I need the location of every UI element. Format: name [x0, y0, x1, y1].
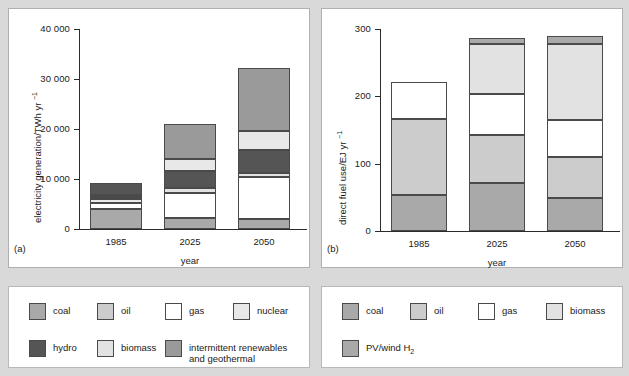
legend-item[interactable]: hydro	[29, 340, 77, 357]
legend-label: biomass	[570, 303, 605, 316]
legend-label: intermittent renewables and geothermal	[189, 340, 287, 364]
legend-panel-b: coaloilgasbiomassPV/wind H2	[321, 286, 623, 368]
legend-swatch-oil	[97, 303, 114, 320]
y-axis-tick-label: 0	[311, 225, 371, 236]
y-axis-tick-label: 300	[311, 23, 371, 34]
bar-segment-hydro	[238, 150, 290, 173]
y-axis-tick	[74, 129, 79, 130]
x-axis-tick-label: 2025	[160, 236, 220, 247]
panel-letter-a: (a)	[14, 243, 26, 254]
y-axis-tick-label: 40 000	[10, 23, 70, 34]
legend-swatch-oil	[410, 303, 427, 320]
legend-swatch-coal	[342, 303, 359, 320]
x-axis-line	[376, 231, 620, 232]
bar-segment-renewables	[238, 68, 290, 131]
bar-segment-biomass	[90, 197, 142, 199]
bar-segment-biomass	[547, 44, 603, 120]
bar-segment-coal	[391, 195, 447, 231]
x-axis-tick-label: 2050	[234, 236, 294, 247]
bar-segment-gas	[391, 82, 447, 118]
legend-label: gas	[502, 303, 517, 316]
y-axis-tick	[375, 29, 380, 30]
y-axis-title: electricity generation/TWh yr −1	[31, 92, 43, 223]
legend-item[interactable]: biomass	[546, 303, 605, 320]
x-axis-tick-label: 2050	[545, 238, 605, 249]
legend-label: oil	[121, 303, 131, 316]
bar-segment-biomass	[469, 44, 525, 95]
bar-segment-oil	[469, 135, 525, 183]
legend-swatch-gas	[165, 303, 182, 320]
legend-item[interactable]: biomass	[97, 340, 156, 357]
y-axis-tick-label: 0	[10, 223, 70, 234]
y-axis-tick	[74, 29, 79, 30]
stacked-bar	[90, 29, 142, 229]
stacked-bar	[469, 29, 525, 231]
bar-segment-nuclear	[90, 199, 142, 203]
y-axis-line	[380, 29, 381, 232]
y-axis-tick-label: 200	[311, 90, 371, 101]
legend-label: nuclear	[257, 303, 288, 316]
panel-letter-b: (b)	[327, 243, 339, 254]
y-axis-line	[79, 29, 80, 230]
stacked-bar	[164, 29, 216, 229]
bar-segment-gas	[90, 203, 142, 210]
y-axis-tick	[74, 229, 79, 230]
bar-segment-gas	[547, 120, 603, 157]
legend-item[interactable]: gas	[165, 303, 204, 320]
bar-segment-hydro	[90, 183, 142, 195]
legend-panel-a: coaloilgasnuclearhydrobiomassintermitten…	[8, 286, 310, 368]
bar-segment-coal	[164, 218, 216, 229]
legend-swatch-pv_wind_h2	[342, 340, 359, 357]
bar-segment-nuclear	[238, 131, 290, 150]
y-axis-tick	[74, 179, 79, 180]
y-axis-tick	[74, 79, 79, 80]
plot-area-b: 0100200300direct fuel use/EJ yr −1year19…	[322, 9, 622, 267]
bar-segment-gas	[164, 193, 216, 218]
legend-swatch-biomass	[546, 303, 563, 320]
bar-segment-coal	[238, 219, 290, 229]
bar-segment-coal	[90, 209, 142, 229]
bar-segment-pv_wind_h2	[547, 36, 603, 43]
legend-item[interactable]: coal	[29, 303, 70, 320]
stacked-bar	[547, 29, 603, 231]
chart-panel-a: 010 00020 00030 00040 000electricity gen…	[8, 8, 310, 268]
y-axis-tick	[375, 96, 380, 97]
legend-swatch-biomass	[97, 340, 114, 357]
stacked-bar	[391, 29, 447, 231]
y-axis-tick-label: 30 000	[10, 73, 70, 84]
x-axis-tick-label: 1985	[86, 236, 146, 247]
legend-item[interactable]: nuclear	[233, 303, 288, 320]
legend-label: coal	[366, 303, 383, 316]
bar-segment-hydro	[164, 171, 216, 188]
legend-item[interactable]: coal	[342, 303, 383, 320]
x-axis-tick-label: 1985	[389, 238, 449, 249]
legend-item[interactable]: intermittent renewables and geothermal	[165, 340, 287, 364]
legend-item[interactable]: oil	[97, 303, 131, 320]
bar-segment-coal	[469, 183, 525, 231]
y-axis-title: direct fuel use/EJ yr −1	[336, 131, 348, 225]
y-axis-tick	[375, 164, 380, 165]
x-axis-line	[75, 229, 307, 230]
legend-swatch-coal	[29, 303, 46, 320]
x-axis-tick-label: 2025	[467, 238, 527, 249]
bar-segment-pv_wind_h2	[469, 38, 525, 43]
plot-area-a: 010 00020 00030 00040 000electricity gen…	[9, 9, 309, 267]
bar-segment-renewables	[90, 195, 142, 198]
bar-segment-oil	[547, 157, 603, 198]
legend-label: oil	[434, 303, 444, 316]
bar-segment-gas	[238, 177, 290, 219]
chart-panel-b: 0100200300direct fuel use/EJ yr −1year19…	[321, 8, 623, 268]
x-axis-title: year	[79, 255, 301, 266]
legend-item[interactable]: PV/wind H2	[342, 340, 414, 357]
legend-label: hydro	[53, 340, 77, 353]
legend-label: biomass	[121, 340, 156, 353]
legend-swatch-hydro	[29, 340, 46, 357]
legend-item[interactable]: gas	[478, 303, 517, 320]
bar-segment-nuclear	[164, 159, 216, 171]
legend-item[interactable]: oil	[410, 303, 444, 320]
bar-segment-renewables	[164, 124, 216, 159]
figure-root: 010 00020 00030 00040 000electricity gen…	[0, 0, 629, 376]
legend-swatch-nuclear	[233, 303, 250, 320]
x-axis-title: year	[380, 257, 614, 268]
y-axis-tick	[375, 231, 380, 232]
